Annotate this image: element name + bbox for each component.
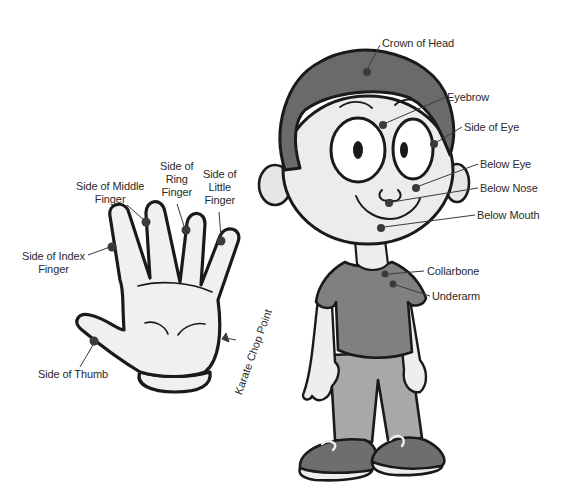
boy-illustration	[0, 0, 575, 501]
label-below-mouth: Below Mouth	[477, 209, 540, 222]
side-of-eye-point	[430, 140, 438, 148]
label-side-of-thumb: Side of Thumb	[38, 368, 108, 381]
underarm-point	[390, 281, 397, 288]
eyebrow-point	[379, 121, 387, 129]
label-side-of-middle-finger: Side of Middle Finger	[76, 180, 144, 206]
below-eye-point	[412, 184, 420, 192]
label-side-of-little-finger: Side of Little Finger	[203, 168, 237, 207]
label-underarm: Underarm	[432, 290, 480, 303]
label-side-of-eye: Side of Eye	[464, 121, 519, 134]
label-eyebrow: Eyebrow	[447, 91, 489, 104]
label-collarbone: Collarbone	[427, 265, 479, 278]
crown-of-head-point	[363, 68, 371, 76]
label-side-of-index-finger: Side of Index Finger	[22, 250, 85, 276]
label-below-eye: Below Eye	[480, 158, 531, 171]
label-crown-of-head: Crown of Head	[382, 37, 454, 50]
label-below-nose: Below Nose	[480, 182, 538, 195]
below-mouth-point	[377, 224, 385, 232]
collarbone-point	[382, 271, 389, 278]
below-nose-point	[385, 199, 393, 207]
tapping-points-diagram: Side of Index Finger Side of Middle Fing…	[0, 0, 575, 501]
label-side-of-ring-finger: Side of Ring Finger	[160, 160, 194, 199]
